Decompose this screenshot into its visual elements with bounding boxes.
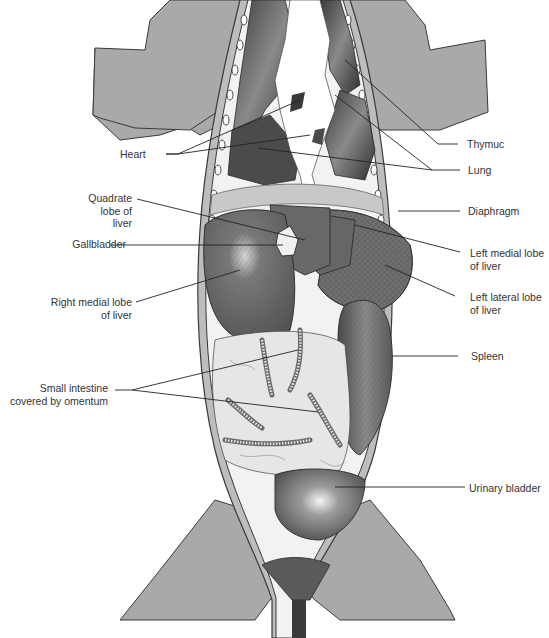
- rectum: [292, 600, 306, 638]
- label-urinary-bladder: Urinary bladder: [469, 482, 541, 495]
- label-small-intestine: Small intestinecovered by omentum: [0, 382, 108, 407]
- label-left-lateral-lobe: Left lateral lobeof liver: [470, 291, 542, 316]
- label-diaphragm: Diaphragm: [468, 205, 519, 218]
- small-intestine: [212, 330, 350, 475]
- label-spleen: Spleen: [471, 350, 504, 363]
- label-lung: Lung: [468, 164, 491, 177]
- label-heart: Heart: [120, 148, 146, 161]
- label-quadrate-lobe: Quadratelobe ofliver: [82, 192, 132, 230]
- label-gallbladder: Gallbladder: [40, 238, 126, 251]
- label-right-medial-lobe: Right medial lobeof liver: [20, 296, 132, 321]
- label-left-medial-lobe: Left medial lobeof liver: [470, 247, 544, 272]
- label-thymus: Thymuc: [467, 138, 504, 151]
